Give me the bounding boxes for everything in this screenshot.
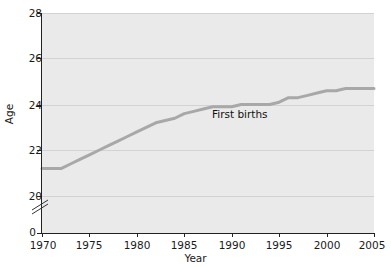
x-tick-mark-1990 [232,233,233,237]
chart-container: First births 28 26 24 22 20 0 Age 1970 1… [0,0,391,267]
x-tick-mark-1975 [89,233,90,237]
axis-break-icon [31,198,51,216]
x-tick-label-1985: 1985 [164,239,204,251]
x-tick-mark-2000 [327,233,328,237]
series-first-births [42,13,374,233]
y-tick-label-28: 28 [2,8,42,19]
x-tick-label-1990: 1990 [212,239,252,251]
x-tick-label-1980: 1980 [117,239,157,251]
series-annotation-label: First births [212,108,268,120]
y-axis-title: Age [3,94,15,134]
x-tick-label-2000: 2000 [307,239,347,251]
x-tick-label-1995: 1995 [259,239,299,251]
plot-area: First births [42,13,374,233]
x-tick-label-1975: 1975 [69,239,109,251]
x-axis-title: Year [0,252,391,264]
x-tick-label-2005: 2005 [352,239,391,251]
y-tick-label-22: 22 [2,145,42,156]
y-tick-label-zero: 0 [22,226,36,238]
x-tick-label-1970: 1970 [23,239,63,251]
y-tick-label-26: 26 [2,53,42,64]
x-tick-mark-1995 [279,233,280,237]
x-axis-line [41,233,375,234]
x-tick-mark-1980 [137,233,138,237]
x-tick-mark-2005 [374,233,375,237]
x-tick-mark-1970 [42,233,43,237]
x-tick-mark-1985 [184,233,185,237]
